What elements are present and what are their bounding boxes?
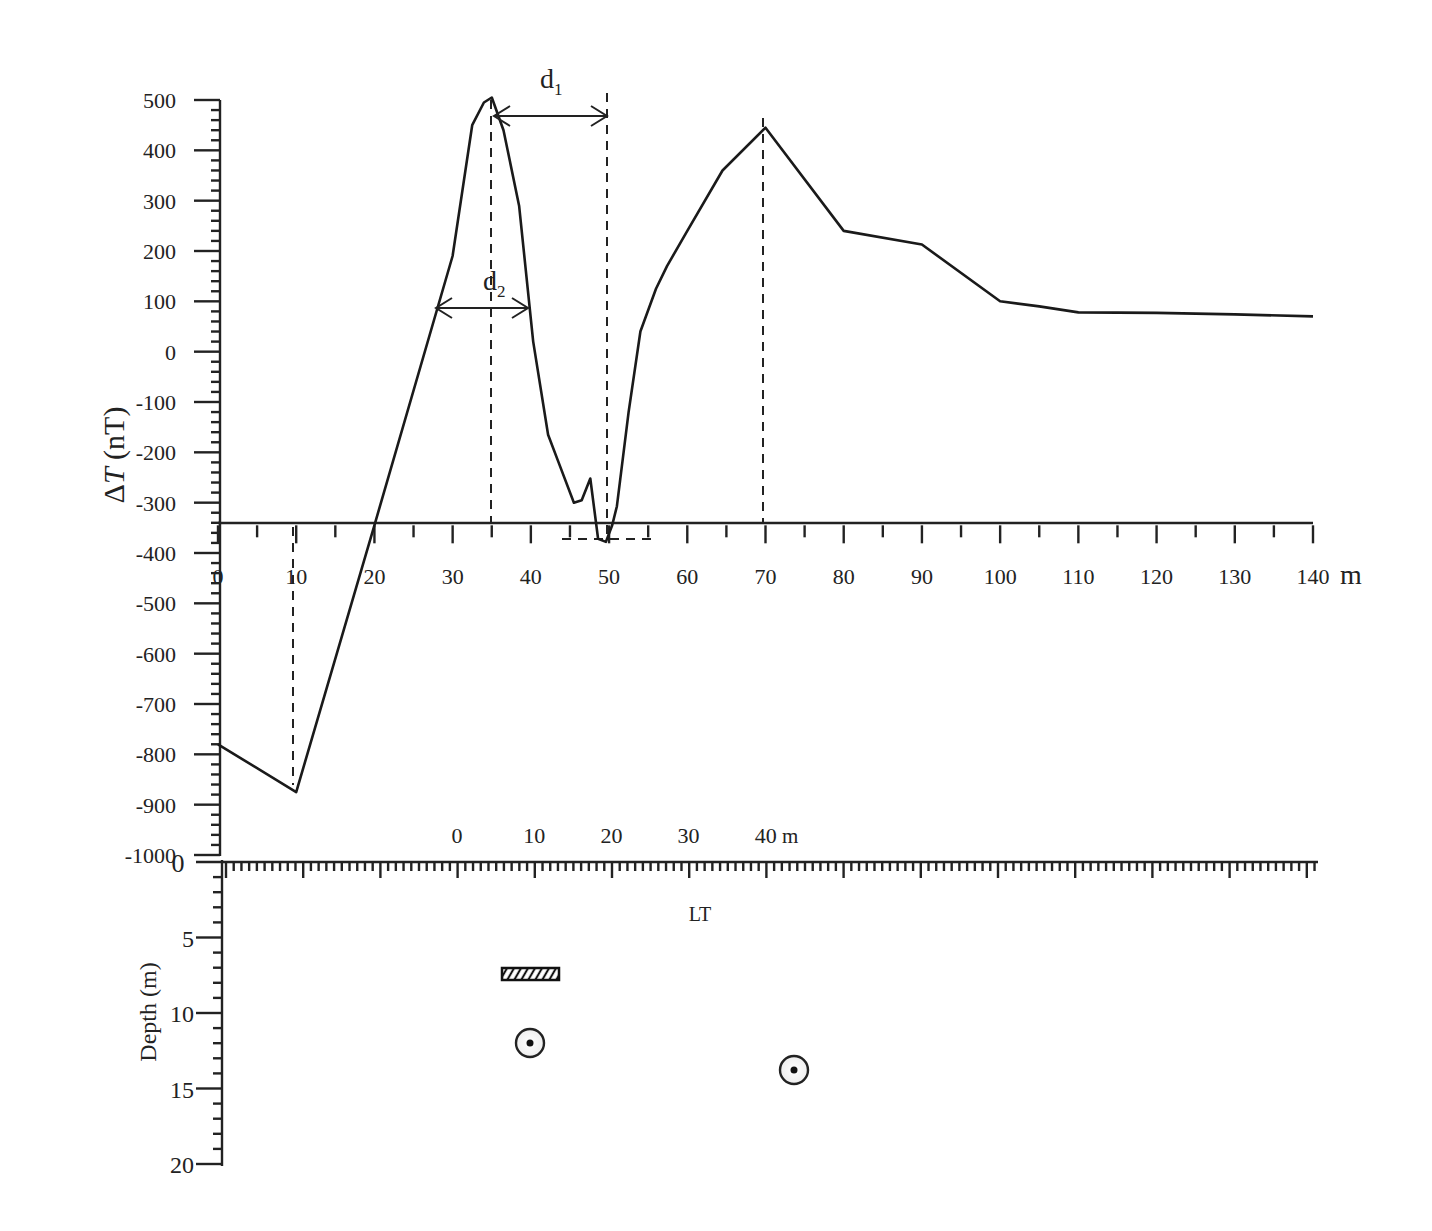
dashed-guides (293, 93, 763, 785)
depth-tick-labels: 5101520 (170, 926, 194, 1179)
d2-annotation: d2 (436, 265, 528, 318)
x-tick-label: 20 (363, 564, 385, 589)
x-tick-label: 70 (755, 564, 777, 589)
y-tick-label: 0 (165, 340, 176, 365)
scale-bar-ticks (226, 862, 1315, 878)
d1-annotation: d1 (494, 63, 607, 126)
x-tick-label: 120 (1140, 564, 1173, 589)
lt-label: LT (689, 903, 712, 925)
scale-bar-label: 0 (452, 823, 463, 848)
y-tick-label: 500 (143, 88, 176, 113)
y-tick-label: -800 (136, 742, 176, 767)
delta-t-curve (218, 98, 1313, 793)
y-tick-label: -1000 (125, 843, 176, 868)
y-major-ticks (194, 100, 220, 855)
y-tick-label: -500 (136, 591, 176, 616)
y-tick-label: -300 (136, 491, 176, 516)
x-tick-label: 0 (213, 564, 224, 589)
depth-ticks (196, 877, 222, 1164)
x-tick-label: 40 (520, 564, 542, 589)
y-tick-label: -900 (136, 793, 176, 818)
y-axis-title: ΔT (nT) (97, 407, 131, 504)
circle-target-icon (516, 1029, 544, 1057)
magnetic-profile-figure: 5004003002001000-100-200-300-400-500-600… (0, 0, 1432, 1231)
x-tick-label: 50 (598, 564, 620, 589)
x-tick-label: 80 (833, 564, 855, 589)
y-tick-label: -600 (136, 642, 176, 667)
y-tick-labels: 5004003002001000-100-200-300-400-500-600… (125, 88, 176, 868)
x-tick-labels: 0102030405060708090100110120130140 (213, 564, 1330, 589)
x-tick-label: 90 (911, 564, 933, 589)
d1-label: d1 (540, 63, 563, 99)
depth-tick-label: 15 (170, 1077, 194, 1103)
y-tick-label: -100 (136, 390, 176, 415)
y-tick-label: 100 (143, 289, 176, 314)
scale-bar-label: 30 (678, 823, 700, 848)
hatched-block-icon (502, 968, 559, 980)
depth-tick-label: 10 (170, 1001, 194, 1027)
x-tick-label: 60 (676, 564, 698, 589)
x-tick-label: 10 (285, 564, 307, 589)
y-tick-label: 200 (143, 239, 176, 264)
y-tick-label: -400 (136, 541, 176, 566)
scale-bar-label: 20 (600, 823, 622, 848)
x-axis: 0102030405060708090100110120130140 m (213, 523, 1363, 590)
scale-bar-label: 10 (523, 823, 545, 848)
scale-bar-unit: m (782, 824, 798, 848)
y-axis: 5004003002001000-100-200-300-400-500-600… (125, 88, 220, 868)
y-tick-label: 300 (143, 189, 176, 214)
x-unit-label: m (1340, 559, 1362, 590)
y-tick-label: 400 (143, 138, 176, 163)
x-ticks (218, 525, 1313, 543)
circle-target-icon (780, 1056, 808, 1084)
y-minor-ticks (211, 110, 220, 845)
depth-tick-label: 5 (182, 926, 194, 952)
scale-bar-label: 40 (755, 823, 777, 848)
x-tick-label: 100 (984, 564, 1017, 589)
depth-section: 010203040 m 0 5101520 Depth (m) LT (135, 823, 1318, 1178)
depth-zero-label: 0 (172, 849, 185, 878)
y-tick-label: -200 (136, 440, 176, 465)
x-tick-label: 110 (1062, 564, 1094, 589)
x-tick-label: 140 (1297, 564, 1330, 589)
x-tick-label: 130 (1218, 564, 1251, 589)
d2-label: d2 (483, 265, 506, 301)
x-tick-label: 30 (442, 564, 464, 589)
y-tick-label: -700 (136, 692, 176, 717)
depth-tick-label: 20 (170, 1152, 194, 1178)
scale-bar-labels: 010203040 (452, 823, 777, 848)
depth-axis-title: Depth (m) (135, 962, 161, 1061)
